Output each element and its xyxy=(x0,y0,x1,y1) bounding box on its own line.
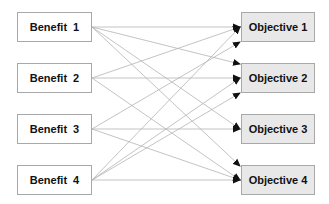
benefit-2-box: Benefit 2 xyxy=(17,63,92,93)
benefit-4-label: Benefit 4 xyxy=(30,174,79,186)
objective-4-box: Objective 4 xyxy=(241,165,315,195)
arrow-b4-o1 xyxy=(92,27,240,180)
benefit-2-label: Benefit 2 xyxy=(30,72,79,84)
objective-3-label: Objective 3 xyxy=(249,123,308,135)
objective-2-box: Objective 2 xyxy=(241,63,315,93)
arrow-b1-o2 xyxy=(92,27,240,64)
arrow-b3-o1 xyxy=(92,42,240,129)
objective-1-label: Objective 1 xyxy=(249,21,308,33)
arrow-b2-o1 xyxy=(92,27,240,78)
benefit-1-label: Benefit 1 xyxy=(30,21,79,33)
benefit-3-label: Benefit 3 xyxy=(30,123,79,135)
objective-1-box: Objective 1 xyxy=(241,12,315,42)
benefit-4-box: Benefit 4 xyxy=(17,165,92,195)
benefit-1-box: Benefit 1 xyxy=(17,12,92,42)
objective-2-label: Objective 2 xyxy=(249,72,308,84)
benefit-3-box: Benefit 3 xyxy=(17,114,92,144)
objective-4-label: Objective 4 xyxy=(249,174,308,186)
objective-3-box: Objective 3 xyxy=(241,114,315,144)
arrow-b1-o4 xyxy=(92,27,240,166)
